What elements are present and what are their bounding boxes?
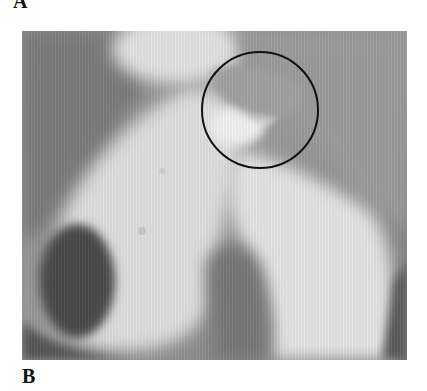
panel-label-a: A: [13, 0, 27, 11]
panel-label-b: B: [22, 366, 35, 386]
radiograph-image: [22, 31, 407, 360]
circle-annotation: [201, 51, 319, 169]
